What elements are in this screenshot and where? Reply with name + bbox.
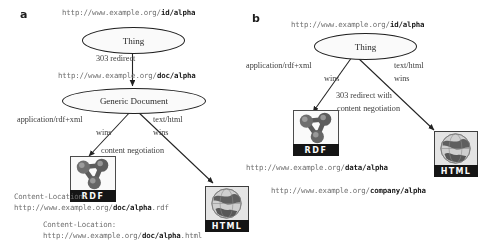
url-bold: doc/alpha bbox=[157, 71, 196, 80]
url-prefix: http://www.example.org/ bbox=[246, 163, 345, 172]
edge-label-a-303-redirect: 303 redirect bbox=[96, 54, 135, 63]
url-bold: doc/alpha bbox=[113, 203, 152, 212]
edge-label-b-redirect-1: 303 redirect with bbox=[336, 91, 392, 100]
html-icon-label: HTML bbox=[434, 165, 478, 177]
edge-label-b-html-conneg-1: text/html bbox=[394, 61, 424, 70]
node-generic-document-a: Generic Document bbox=[62, 88, 206, 114]
panel-b-url-company-alpha: http://www.example.org/company/alpha bbox=[271, 186, 426, 195]
content-location-url-rdf: http://www.example.org/doc/alpha.rdf bbox=[14, 203, 169, 212]
url-suffix: .html bbox=[181, 231, 203, 240]
panel-a: a http://www.example.org/id/alpha Thing … bbox=[0, 0, 240, 247]
edge-label-b-rdf-conneg-2: wins bbox=[324, 74, 339, 83]
panel-b: b http://www.example.org/id/alpha Thing … bbox=[238, 0, 478, 247]
url-bold: id/alpha bbox=[161, 8, 195, 17]
panel-a-url-id-alpha: http://www.example.org/id/alpha bbox=[62, 8, 195, 17]
url-suffix: .rdf bbox=[152, 203, 169, 212]
rdf-file-icon: RDF bbox=[293, 110, 339, 156]
edge-label-a-html-conneg-1: text/html bbox=[153, 115, 183, 124]
edge-label-b-html-conneg-2: wins bbox=[394, 74, 409, 83]
node-generic-document-a-label: Generic Document bbox=[100, 96, 168, 106]
url-prefix: http://www.example.org/ bbox=[291, 20, 390, 29]
panel-b-url-id-alpha: http://www.example.org/id/alpha bbox=[291, 20, 424, 29]
url-bold: id/alpha bbox=[390, 20, 424, 29]
panel-a-label: a bbox=[20, 8, 27, 21]
rdf-molecule-icon bbox=[294, 111, 337, 144]
node-thing-a: Thing bbox=[82, 27, 185, 54]
url-prefix: http://www.example.org/ bbox=[43, 231, 142, 240]
url-prefix: http://www.example.org/ bbox=[62, 8, 161, 17]
node-thing-b-label: Thing bbox=[355, 42, 377, 52]
url-prefix: http://www.example.org/ bbox=[58, 71, 157, 80]
figure-canvas: a http://www.example.org/id/alpha Thing … bbox=[0, 0, 478, 247]
node-thing-b: Thing bbox=[314, 33, 417, 60]
edge-label-a-html-conneg-2: wins bbox=[153, 128, 168, 137]
panel-a-url-doc-alpha: http://www.example.org/doc/alpha bbox=[58, 71, 196, 80]
rdf-molecule-icon bbox=[71, 157, 114, 190]
panel-b-url-data-alpha: http://www.example.org/data/alpha bbox=[246, 163, 388, 172]
edge-label-a-rdf-conneg-2: wins bbox=[96, 128, 111, 137]
edge-label-a-content-negotiation: content negotiation bbox=[101, 146, 164, 155]
content-location-url-html: http://www.example.org/doc/alpha.html bbox=[43, 231, 202, 240]
rdf-icon-graphic bbox=[293, 110, 339, 146]
rdf-icon-label: RDF bbox=[293, 144, 339, 156]
node-thing-a-label: Thing bbox=[123, 36, 145, 46]
html-file-icon: HTML bbox=[434, 131, 478, 177]
edge-label-b-redirect-2: content negotiation bbox=[337, 104, 400, 113]
url-prefix: http://www.example.org/ bbox=[271, 186, 370, 195]
url-bold: data/alpha bbox=[345, 163, 388, 172]
content-location-header-rdf: Content-Location: bbox=[14, 192, 87, 201]
rdf-icon-graphic bbox=[70, 156, 116, 192]
panel-b-label: b bbox=[252, 12, 260, 25]
content-location-header-html: Content-Location: bbox=[43, 220, 116, 229]
edge-label-a-rdf-conneg-1: application/rdf+xml bbox=[17, 115, 83, 124]
html-icon-graphic bbox=[434, 131, 478, 167]
url-prefix: http://www.example.org/ bbox=[14, 203, 113, 212]
url-bold: doc/alpha bbox=[142, 231, 181, 240]
globe-icon bbox=[435, 132, 476, 165]
url-bold: company/alpha bbox=[370, 186, 426, 195]
edge-label-b-rdf-conneg-1: application/rdf+xml bbox=[246, 61, 312, 70]
